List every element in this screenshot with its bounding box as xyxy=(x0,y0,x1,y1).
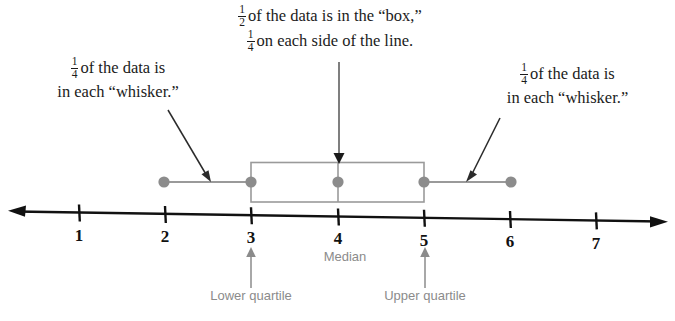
axis-tick-3 xyxy=(251,207,252,224)
leader-arrowhead-right-whisker xyxy=(466,170,477,182)
leader-line-right-whisker xyxy=(471,118,500,176)
axis-right-arrowhead xyxy=(650,216,668,227)
axis-tick-7 xyxy=(596,212,597,229)
axis-tick-6 xyxy=(510,211,511,228)
label-median: Median xyxy=(290,249,400,264)
data-point-maximum xyxy=(505,176,516,187)
axis-tick-5 xyxy=(424,210,425,227)
leader-arrowhead-left-whisker xyxy=(202,170,212,182)
data-point-minimum xyxy=(158,176,169,187)
axis-label-3: 3 xyxy=(240,228,262,248)
axis-left-arrowhead xyxy=(8,206,26,217)
axis-tick-1 xyxy=(79,205,80,222)
axis-label-6: 6 xyxy=(499,232,521,252)
data-point-upper-quartile xyxy=(418,176,429,187)
data-point-lower-quartile xyxy=(245,176,256,187)
axis-tick-4 xyxy=(338,209,339,226)
callout-arrowhead-lower-quartile xyxy=(246,247,256,257)
axis-label-4: 4 xyxy=(327,229,349,249)
label-upper-quartile: Upper quartile xyxy=(355,288,495,303)
box-plot-figure: 1 2 of the data is in the “box,” 1 4 on … xyxy=(0,0,675,321)
leader-line-left-whisker xyxy=(168,110,207,176)
axis-label-7: 7 xyxy=(585,234,607,254)
axis-label-2: 2 xyxy=(154,227,176,247)
diagram-graphics xyxy=(0,0,675,321)
axis-label-1: 1 xyxy=(68,226,90,246)
data-point-median xyxy=(332,176,343,187)
axis-tick-2 xyxy=(165,206,166,223)
label-lower-quartile: Lower quartile xyxy=(181,288,321,303)
axis-label-5: 5 xyxy=(413,231,435,251)
